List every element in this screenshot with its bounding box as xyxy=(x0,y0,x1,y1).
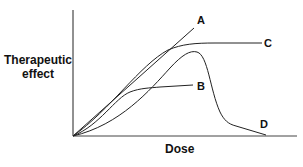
curve-label-a: A xyxy=(197,15,205,26)
y-axis-label-line2: effect xyxy=(4,67,72,81)
chart-canvas xyxy=(0,0,303,167)
curve-d xyxy=(73,52,266,136)
curve-label-d: D xyxy=(260,119,268,130)
dose-response-chart: Therapeutic effect Dose A B C D xyxy=(0,0,303,167)
curve-c xyxy=(73,43,262,136)
curve-b xyxy=(73,85,193,136)
y-axis-label: Therapeutic effect xyxy=(4,53,72,81)
curve-label-b: B xyxy=(197,81,205,92)
curve-a xyxy=(73,28,194,136)
y-axis-label-line1: Therapeutic xyxy=(4,53,72,67)
curve-label-c: C xyxy=(264,38,272,49)
x-axis-label: Dose xyxy=(165,143,194,155)
